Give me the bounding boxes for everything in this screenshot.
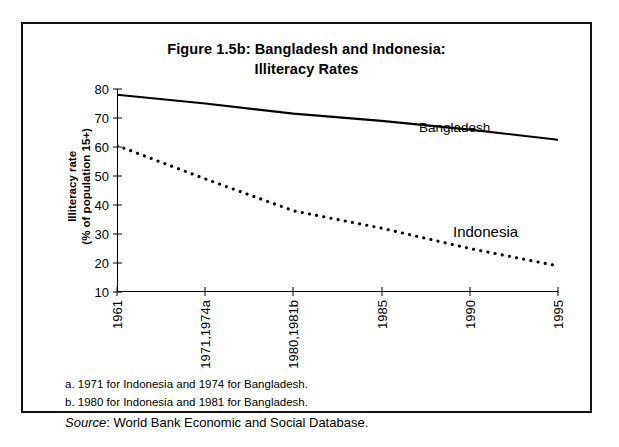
- y-axis-title-line-2: (% of population 15+): [79, 111, 93, 261]
- y-axis-tick-mark: [113, 147, 122, 148]
- x-axis-tick-mark: [293, 287, 294, 296]
- y-axis-tick-label: 60: [95, 141, 113, 154]
- x-axis-tick-label: 1971,1974a: [199, 300, 212, 369]
- x-axis-tick-mark: [469, 287, 470, 296]
- footnote-b: b. 1980 for Indonesia and 1981 for Bangl…: [65, 394, 585, 412]
- y-axis-tick: 20: [95, 257, 117, 270]
- x-axis-tick-label: 1961: [111, 300, 124, 329]
- x-axis-tick: 1971,1974a: [199, 292, 212, 369]
- x-axis-tick-label: 1980,1981b: [287, 300, 300, 369]
- y-axis-tick: 30: [95, 228, 117, 241]
- source-text: : World Bank Economic and Social Databas…: [106, 415, 368, 430]
- footnote-a: a. 1971 for Indonesia and 1974 for Bangl…: [65, 376, 585, 394]
- y-axis-tick: 70: [95, 112, 117, 125]
- x-axis-tick-mark: [117, 287, 118, 296]
- y-axis-title: Illiteracy rate (% of population 15+): [65, 111, 94, 261]
- y-axis-tick: 40: [95, 199, 117, 212]
- footnotes: a. 1971 for Indonesia and 1974 for Bangl…: [65, 376, 585, 433]
- y-axis-tick-mark: [113, 176, 122, 177]
- x-axis-tick: 1990: [463, 292, 476, 329]
- y-axis-tick-label: 70: [95, 112, 113, 125]
- x-axis-tick-label: 1995: [552, 300, 565, 329]
- y-axis-tick-mark: [113, 263, 122, 264]
- page-title: Figure 1.5b: Bangladesh and Indonesia: I…: [23, 40, 590, 79]
- x-axis-tick-mark: [558, 287, 559, 296]
- y-axis-title-line-1: Illiteracy rate: [65, 111, 79, 261]
- y-axis-tick-label: 30: [95, 228, 113, 241]
- y-axis-tick-label: 20: [95, 257, 113, 270]
- axis-lines: [117, 89, 558, 292]
- source-line: Source: World Bank Economic and Social D…: [65, 413, 585, 433]
- x-axis-tick-label: 1985: [375, 300, 388, 329]
- plot-area: 1020304050607080 19611971,1974a1980,1981…: [117, 89, 558, 292]
- x-axis-tick: 1961: [111, 292, 124, 329]
- x-axis-tick-mark: [205, 287, 206, 296]
- y-axis-tick-mark: [113, 205, 122, 206]
- series-label-bangladesh: Bangladesh: [419, 120, 490, 135]
- y-axis-tick-label: 50: [95, 170, 113, 183]
- x-axis-tick-label: 1990: [463, 300, 476, 329]
- chart-title-line-1: Figure 1.5b: Bangladesh and Indonesia:: [167, 41, 446, 57]
- y-axis-tick: 80: [95, 83, 117, 96]
- figure-border: Figure 1.5b: Bangladesh and Indonesia: I…: [21, 22, 592, 413]
- y-axis-tick-mark: [113, 234, 122, 235]
- y-axis-tick: 50: [95, 170, 117, 183]
- x-axis-tick: 1985: [375, 292, 388, 329]
- chart-title-line-2: Illiteracy Rates: [23, 60, 590, 80]
- series-label-indonesia: Indonesia: [453, 223, 518, 240]
- y-axis-tick: 60: [95, 141, 117, 154]
- y-axis-tick-label: 80: [95, 83, 113, 96]
- y-axis-tick-mark: [113, 89, 122, 90]
- y-axis-tick-label: 40: [95, 199, 113, 212]
- x-axis-tick-mark: [381, 287, 382, 296]
- x-axis-tick: 1980,1981b: [287, 292, 300, 369]
- y-axis-tick-mark: [113, 118, 122, 119]
- source-label: Source: [65, 415, 106, 430]
- x-axis-tick: 1995: [552, 292, 565, 329]
